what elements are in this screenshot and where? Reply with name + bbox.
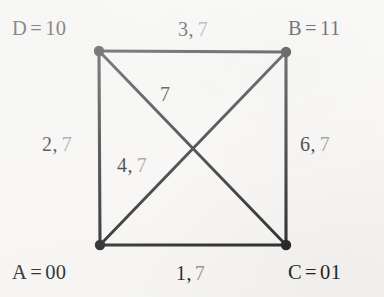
edge-d-b bbox=[99, 51, 286, 52]
node-label-b: B=11 bbox=[288, 18, 341, 39]
edge-label-left: 2,7 bbox=[42, 134, 72, 154]
node-label-a-code: 00 bbox=[45, 261, 66, 283]
node-dot-c bbox=[281, 240, 291, 250]
node-dot-b bbox=[281, 47, 291, 57]
node-label-d-name: D bbox=[12, 17, 27, 39]
edge-label-top: 3,7 bbox=[178, 19, 208, 39]
edge-label-top-primary: 3, bbox=[178, 18, 194, 40]
edge-label-right-primary: 6, bbox=[300, 133, 316, 155]
edge-label-right: 6,7 bbox=[300, 134, 330, 154]
edge-label-bottom-secondary: 7 bbox=[192, 262, 205, 284]
edge-label-diagonal-top-primary: 7 bbox=[160, 83, 170, 105]
edge-label-bottom: 1,7 bbox=[176, 263, 205, 283]
edge-label-diagonal-top: 7 bbox=[160, 84, 170, 104]
edge-d-a bbox=[99, 51, 100, 245]
node-label-b-name: B bbox=[288, 17, 302, 39]
edge-label-diagonal-mid-secondary: 7 bbox=[133, 154, 147, 176]
node-label-b-equals: = bbox=[302, 17, 320, 39]
node-label-c-name: C bbox=[288, 261, 302, 283]
node-label-c: C=01 bbox=[288, 262, 341, 283]
edge-label-right-secondary: 7 bbox=[316, 133, 330, 155]
node-label-d-code: 10 bbox=[45, 17, 66, 39]
node-label-b-code: 11 bbox=[320, 17, 341, 39]
node-dot-a bbox=[95, 240, 105, 250]
graph-edges bbox=[99, 51, 286, 245]
node-label-c-code: 01 bbox=[320, 261, 341, 283]
node-label-a-equals: = bbox=[27, 261, 45, 283]
node-label-a-name: A bbox=[12, 261, 27, 283]
node-dot-d bbox=[94, 46, 104, 56]
edge-label-left-primary: 2, bbox=[42, 133, 58, 155]
graph-diagram: D=10 B=11 A=00 C=01 3,7 2,7 6,7 1,7 7 4,… bbox=[0, 0, 384, 297]
edge-label-bottom-primary: 1, bbox=[176, 262, 192, 284]
node-label-d-equals: = bbox=[27, 17, 45, 39]
edge-label-left-secondary: 7 bbox=[58, 133, 72, 155]
edge-label-diagonal-mid: 4,7 bbox=[117, 155, 147, 175]
node-label-a: A=00 bbox=[12, 262, 67, 283]
edge-label-diagonal-mid-primary: 4, bbox=[117, 154, 133, 176]
node-label-c-equals: = bbox=[302, 261, 320, 283]
edge-label-top-secondary: 7 bbox=[194, 18, 208, 40]
node-label-d: D=10 bbox=[12, 18, 67, 39]
